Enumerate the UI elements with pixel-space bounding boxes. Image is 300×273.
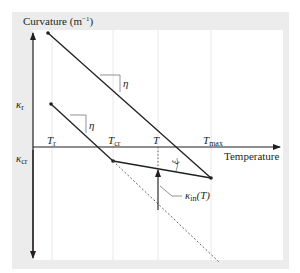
- y-tick-kappa-r: κr: [16, 99, 24, 112]
- lower-line-start-point: [49, 102, 53, 106]
- x-tick-t: T: [153, 135, 159, 146]
- kappa-in-leader: [160, 186, 182, 196]
- lower-curvature-line: [51, 104, 113, 161]
- upper-curvature-line: [48, 33, 211, 178]
- x-axis-label: Temperature: [224, 151, 279, 162]
- y-axis-label: Curvature (m−1): [23, 16, 93, 27]
- grid-lines: [52, 30, 211, 260]
- y-tick-kappa-cr: κcr: [16, 153, 28, 166]
- upper-line-start-point: [46, 31, 50, 35]
- kappa-in-label: κin(T): [185, 190, 210, 203]
- upper-slope-eta-label: η: [123, 78, 128, 89]
- x-tick-t-r: Tr: [47, 135, 56, 148]
- lower-slope-eta-label: η: [89, 120, 94, 131]
- upper-slope-triangle: [100, 75, 120, 92]
- x-tick-t-cr: Tcr: [108, 135, 120, 148]
- x-tick-t-max: Tmax: [203, 135, 223, 148]
- curvature-temperature-diagram: [0, 0, 300, 273]
